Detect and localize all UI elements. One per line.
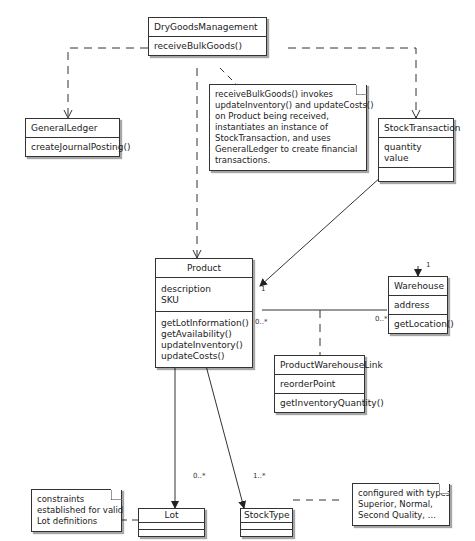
operations-section — [241, 530, 292, 536]
operation: updateInventory() — [161, 340, 247, 351]
class-product[interactable]: Product description SKU getLotInformatio… — [155, 258, 253, 368]
attribute: quantity — [384, 142, 448, 153]
class-name: Lot — [139, 509, 204, 523]
dependency-drygoods-generalledger — [68, 48, 148, 118]
note-stock-type-configuration: configured with types Superior, Normal, … — [352, 483, 450, 526]
attributes-section: quantity value — [379, 138, 453, 168]
class-name: StockTransaction — [379, 119, 453, 138]
operation: updateCosts() — [161, 351, 247, 362]
multiplicity-product-stocktransaction: 1 — [261, 285, 265, 293]
attributes-section: address — [389, 296, 447, 315]
operation: receiveBulkGoods() — [154, 41, 261, 52]
association-stocktransaction-product — [260, 176, 382, 286]
attribute: value — [384, 153, 448, 164]
class-name: Product — [156, 259, 252, 278]
attributes-section: description SKU — [156, 278, 252, 312]
class-name: DryGoodsManagement — [149, 18, 266, 37]
multiplicity-lot: 0..* — [193, 472, 205, 480]
class-product-warehouse-link[interactable]: ProductWarehouseLink reorderPoint getInv… — [274, 355, 365, 413]
operations-section: getLotInformation() getAvailability() up… — [156, 312, 252, 367]
operations-section: getInventoryQuantity() — [275, 394, 364, 412]
attributes-section: reorderPoint — [275, 375, 364, 394]
association-product-stocktype — [205, 362, 244, 508]
class-name: GeneralLedger — [26, 119, 119, 138]
class-name: ProductWarehouseLink — [275, 356, 364, 375]
operation: getLocation() — [394, 319, 442, 330]
attribute: description — [161, 284, 247, 295]
note-fold-icon — [111, 489, 122, 500]
operation: createJournalPosting() — [31, 142, 114, 153]
note-fold-icon — [356, 84, 367, 95]
class-general-ledger[interactable]: GeneralLedger createJournalPosting() — [25, 118, 120, 157]
operation: getInventoryQuantity() — [280, 398, 359, 409]
note-receive-bulk-goods: receiveBulkGoods() invokes updateInvento… — [209, 84, 367, 171]
attribute: address — [394, 300, 442, 311]
operations-section — [139, 530, 204, 536]
class-dry-goods-management[interactable]: DryGoodsManagement receiveBulkGoods() — [148, 17, 267, 56]
note-lot-constraints: constraints established for valid Lot de… — [31, 489, 122, 532]
operation: getAvailability() — [161, 329, 247, 340]
class-name: StockType — [241, 509, 292, 523]
note-fold-icon — [439, 483, 450, 494]
class-stock-type[interactable]: StockType — [240, 508, 293, 537]
class-lot[interactable]: Lot — [138, 508, 205, 537]
class-stock-transaction[interactable]: StockTransaction quantity value — [378, 118, 454, 182]
operations-section: createJournalPosting() — [26, 138, 119, 156]
attributes-section — [139, 523, 204, 530]
class-warehouse[interactable]: Warehouse address getLocation() — [388, 276, 448, 334]
multiplicity-stock-type: 1..* — [253, 472, 265, 480]
operations-section: getLocation() — [389, 315, 447, 333]
operation: getLotInformation() — [161, 318, 247, 329]
operations-section: receiveBulkGoods() — [149, 37, 266, 55]
multiplicity-warehouse-top: 1 — [426, 261, 430, 269]
multiplicity-product-warehouse: 0..* — [255, 318, 267, 326]
class-name: Warehouse — [389, 277, 447, 296]
attributes-section — [241, 523, 292, 530]
multiplicity-warehouse-product: 0..* — [375, 315, 387, 323]
note-anchor-receive — [220, 68, 236, 84]
attribute: SKU — [161, 295, 247, 306]
attribute: reorderPoint — [280, 379, 359, 390]
operations-section — [379, 168, 453, 181]
